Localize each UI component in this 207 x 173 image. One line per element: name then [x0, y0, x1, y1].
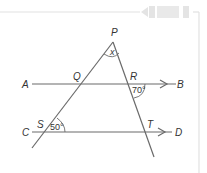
geometry-diagram: P Q R A B S T C D x 70° 50°: [0, 0, 207, 173]
line-PT: [113, 42, 154, 157]
label-T: T: [147, 119, 154, 130]
angle-label-70: 70°: [132, 85, 146, 95]
label-R: R: [130, 71, 137, 82]
angle-label-50: 50°: [50, 122, 64, 132]
label-Q: Q: [73, 71, 81, 82]
label-P: P: [111, 27, 118, 38]
label-C: C: [22, 127, 30, 138]
label-B: B: [177, 79, 184, 90]
tab-decoration: [141, 6, 189, 18]
label-D: D: [175, 127, 182, 138]
label-A: A: [21, 79, 29, 90]
label-S: S: [37, 119, 44, 130]
page-frame: [0, 12, 199, 173]
angle-label-x: x: [109, 47, 115, 57]
